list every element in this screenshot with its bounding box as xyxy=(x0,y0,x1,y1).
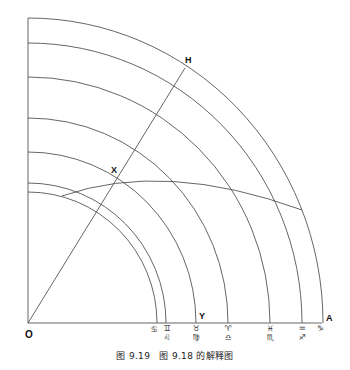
zodiac-mark-5-bottom: ♐ xyxy=(296,334,308,342)
oblique-arc-through-X xyxy=(62,181,302,210)
arc-2 xyxy=(28,77,270,323)
zodiac-mark-2-top: ♉ xyxy=(190,325,202,333)
label-X: X xyxy=(111,166,117,175)
zodiac-mark-2-bottom: ♍ xyxy=(190,334,202,342)
zodiac-mark-1-top: ♊ xyxy=(161,325,173,333)
figure-caption: 图 9.19 图 9.18 的解释图 xyxy=(0,349,350,362)
label-A: A xyxy=(326,314,333,323)
arc-3 xyxy=(28,118,228,323)
zodiac-mark-5-top: ♒ xyxy=(296,325,308,333)
zodiac-mark-3-top: ♈ xyxy=(222,325,234,333)
arc-4 xyxy=(28,152,196,323)
label-O: O xyxy=(25,330,33,340)
label-Y: Y xyxy=(199,312,205,321)
arc-1 xyxy=(28,43,302,323)
zodiac-mark-6-top: ♑ xyxy=(314,325,326,333)
zodiac-mark-3-bottom: ♎ xyxy=(222,334,234,342)
arc-5 xyxy=(28,183,166,323)
radial-line-OH xyxy=(28,68,185,323)
arc-0 xyxy=(28,18,323,323)
zodiac-mark-0-top: ♋ xyxy=(148,326,160,334)
diagram-canvas xyxy=(0,0,350,370)
label-H: H xyxy=(185,56,192,65)
zodiac-mark-4-bottom: ♏ xyxy=(264,334,276,342)
arc-6 xyxy=(28,192,157,323)
zodiac-mark-1-bottom: ♌ xyxy=(161,334,173,342)
concentric-arcs xyxy=(28,18,323,323)
zodiac-mark-4-top: ♓ xyxy=(264,325,276,333)
